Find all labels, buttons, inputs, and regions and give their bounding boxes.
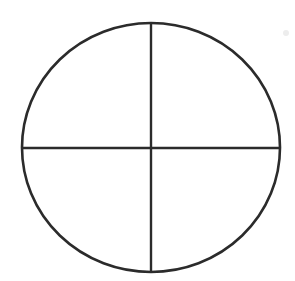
diagram-background: [0, 0, 295, 281]
quartered-circle-diagram: [0, 0, 295, 281]
figure-canvas: [0, 0, 295, 281]
scan-speck: [283, 30, 289, 36]
